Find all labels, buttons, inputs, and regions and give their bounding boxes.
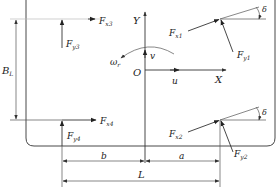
fy1-label: Fy1 [236,50,250,62]
x-axis-label: X [214,74,223,85]
yaw-rate-label: ωr [110,57,121,68]
fx4-label: Fx4 [99,116,114,127]
fx1-label: Fx1 [168,28,182,39]
vehicle-dynamics-diagram: BL Fy3 Fx3 Fx4 Fy4 Y X O u v ωr δ Fx1 Fy… [0,0,276,190]
origin-label: O [133,67,141,78]
yaw-rate-arc [121,47,174,58]
wheelbase-label: L [137,169,145,180]
fy2-arrow [221,121,233,152]
fx1-arrow [188,20,219,32]
wheel1-steer-line [220,7,259,19]
fx2-label: Fx2 [168,129,183,140]
v-label: v [150,51,155,61]
delta1-arc [256,7,260,19]
delta2-arc [256,107,260,120]
wheel2-steer-line [220,107,259,120]
fy2-label: Fy2 [233,149,248,161]
fx2-arrow [188,121,219,133]
a-label: a [179,151,184,161]
b-label: b [101,151,107,161]
fy1-arrow [221,20,233,52]
u-label: u [172,76,178,86]
fx3-label: Fx3 [98,16,113,27]
fy4-label: Fy4 [66,131,81,143]
y-axis-label: Y [133,15,141,26]
fy3-label: Fy3 [65,39,80,51]
delta2-label: δ [262,108,267,117]
delta1-label: δ [262,5,267,14]
track-width-label: BL [1,65,13,77]
vehicle-body-outline [26,0,275,146]
